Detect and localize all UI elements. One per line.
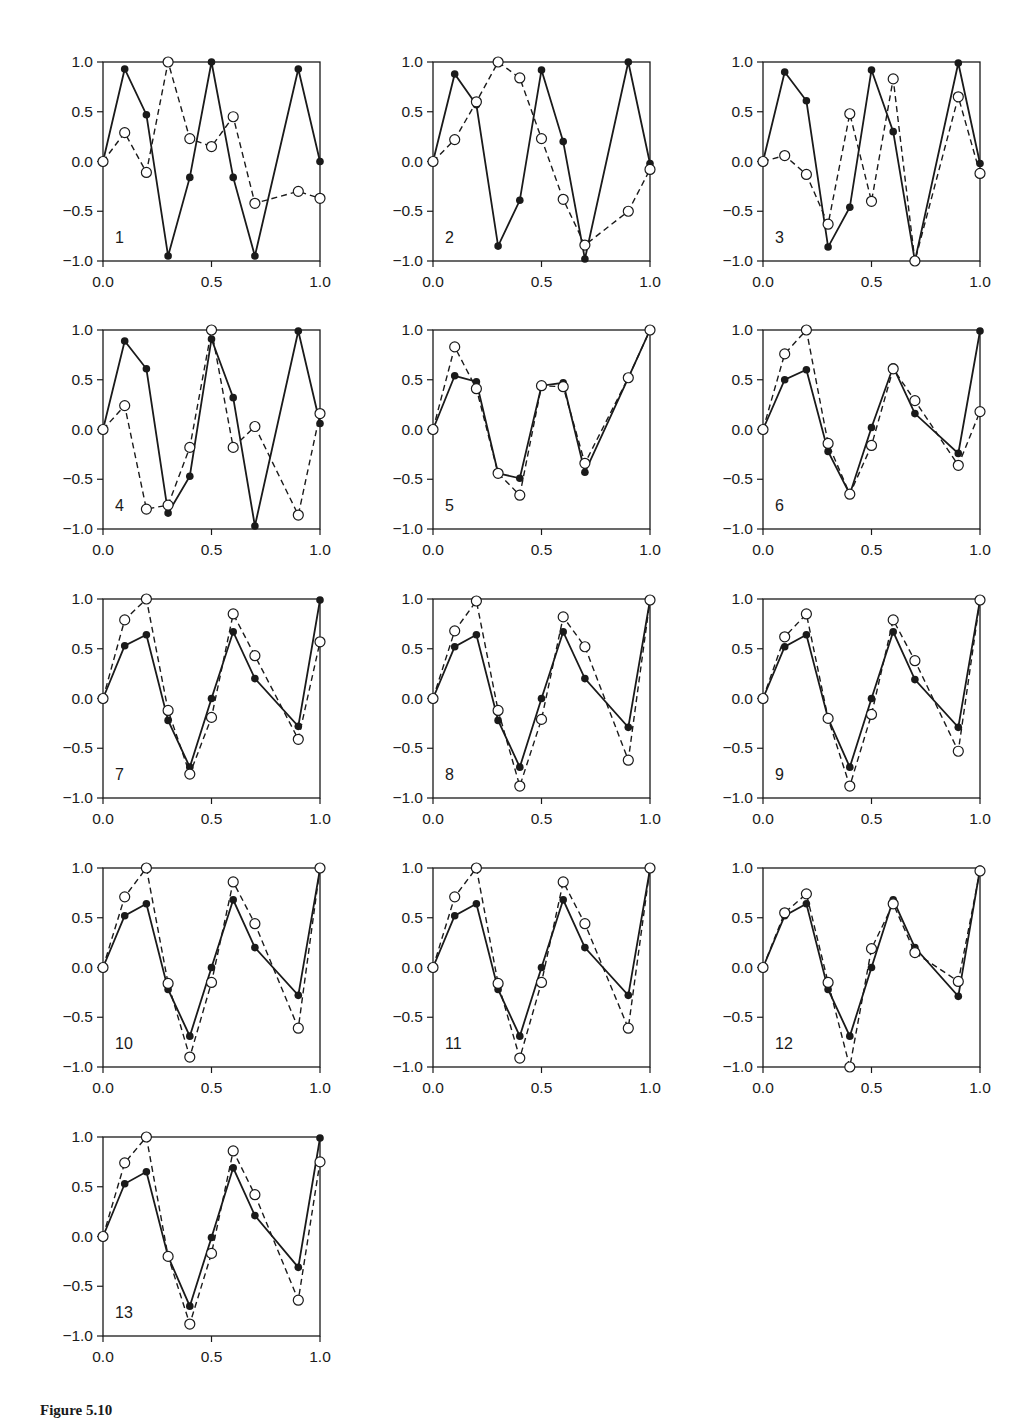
open-circle-marker xyxy=(185,442,195,452)
open-circle-marker xyxy=(98,1232,108,1242)
filled-circle-marker xyxy=(473,631,481,639)
open-circle-marker xyxy=(228,112,238,122)
filled-circle-marker xyxy=(976,160,984,168)
open-circle-marker xyxy=(141,863,151,873)
x-tick-label: 1.0 xyxy=(309,1079,331,1096)
open-circle-marker xyxy=(558,382,568,392)
x-tick-label: 1.0 xyxy=(639,810,661,827)
open-circle-marker xyxy=(801,325,811,335)
open-circle-marker xyxy=(801,609,811,619)
y-tick-label: 0.5 xyxy=(71,1178,93,1195)
filled-circle-marker xyxy=(143,111,151,119)
open-circle-marker xyxy=(228,609,238,619)
filled-circle-marker xyxy=(976,327,984,335)
y-tick-label: 0.0 xyxy=(71,421,93,438)
open-circle-marker xyxy=(428,425,438,435)
open-circle-marker xyxy=(910,396,920,406)
x-tick-label: 0.5 xyxy=(201,810,223,827)
open-circle-marker xyxy=(558,612,568,622)
filled-circle-marker xyxy=(208,695,216,703)
open-circle-marker xyxy=(163,1251,173,1261)
open-circle-marker xyxy=(910,948,920,958)
open-circle-marker xyxy=(141,594,151,604)
y-tick-label: −1.0 xyxy=(392,520,423,537)
x-tick-label: 0.5 xyxy=(861,541,883,558)
dashed-series-line xyxy=(103,330,320,515)
x-tick-label: 0.0 xyxy=(92,273,114,290)
filled-circle-marker xyxy=(251,675,259,683)
open-circle-marker xyxy=(228,442,238,452)
open-circle-marker xyxy=(315,637,325,647)
open-circle-marker xyxy=(823,977,833,987)
open-circle-marker xyxy=(645,863,655,873)
y-tick-label: −0.5 xyxy=(392,470,423,487)
dashed-series-line xyxy=(433,600,650,786)
open-circle-marker xyxy=(537,714,547,724)
y-tick-label: 1.0 xyxy=(401,53,423,70)
open-circle-marker xyxy=(953,976,963,986)
open-circle-marker xyxy=(450,626,460,636)
filled-circle-marker xyxy=(451,70,459,78)
y-tick-label: 1.0 xyxy=(71,590,93,607)
x-tick-label: 0.0 xyxy=(422,1079,444,1096)
filled-circle-marker xyxy=(581,255,589,263)
open-circle-marker xyxy=(537,381,547,391)
open-circle-marker xyxy=(975,407,985,417)
panel-7: 1.00.50.0−0.5−1.00.00.51.07 xyxy=(62,590,331,827)
y-tick-label: −0.5 xyxy=(722,202,753,219)
open-circle-marker xyxy=(867,709,877,719)
filled-circle-marker xyxy=(846,203,854,211)
x-tick-label: 0.5 xyxy=(201,1079,223,1096)
open-circle-marker xyxy=(450,342,460,352)
y-tick-label: 0.0 xyxy=(401,153,423,170)
open-circle-marker xyxy=(471,596,481,606)
filled-circle-marker xyxy=(229,1164,237,1172)
y-tick-label: 1.0 xyxy=(731,53,753,70)
y-tick-label: 0.5 xyxy=(71,640,93,657)
panel-9: 1.00.50.0−0.5−1.00.00.51.09 xyxy=(722,590,991,827)
y-tick-label: −0.5 xyxy=(722,1008,753,1025)
filled-circle-marker xyxy=(121,912,129,920)
x-tick-label: 0.0 xyxy=(92,1348,114,1365)
panel-2: 1.00.50.0−0.5−1.00.00.51.02 xyxy=(392,53,661,290)
filled-circle-marker xyxy=(625,58,633,66)
dashed-series-line xyxy=(103,1137,320,1324)
y-tick-label: −0.5 xyxy=(722,739,753,756)
open-circle-marker xyxy=(801,169,811,179)
open-circle-marker xyxy=(758,963,768,973)
filled-circle-marker xyxy=(846,763,854,771)
open-circle-marker xyxy=(250,1190,260,1200)
solid-series-line xyxy=(103,600,320,767)
open-circle-marker xyxy=(315,1157,325,1167)
y-tick-label: 0.0 xyxy=(71,1228,93,1245)
y-tick-label: −1.0 xyxy=(392,252,423,269)
y-tick-label: −0.5 xyxy=(62,1008,93,1025)
x-tick-label: 0.0 xyxy=(422,273,444,290)
y-tick-label: 0.5 xyxy=(71,371,93,388)
open-circle-marker xyxy=(645,595,655,605)
figure-caption-label: Figure 5.10 xyxy=(40,1402,112,1418)
open-circle-marker xyxy=(120,615,130,625)
filled-circle-marker xyxy=(186,174,194,182)
filled-circle-marker xyxy=(824,243,832,251)
filled-circle-marker xyxy=(559,896,567,904)
y-tick-label: 1.0 xyxy=(401,590,423,607)
open-circle-marker xyxy=(758,694,768,704)
filled-circle-marker xyxy=(208,964,216,972)
filled-circle-marker xyxy=(316,420,324,428)
open-circle-marker xyxy=(428,694,438,704)
open-circle-marker xyxy=(623,206,633,216)
panel-11: 1.00.50.0−0.5−1.00.00.51.011 xyxy=(392,859,661,1096)
filled-circle-marker xyxy=(295,723,303,731)
filled-circle-marker xyxy=(143,365,151,373)
open-circle-marker xyxy=(428,157,438,167)
filled-circle-marker xyxy=(229,174,237,182)
x-tick-label: 0.5 xyxy=(531,541,553,558)
open-circle-marker xyxy=(845,781,855,791)
open-circle-marker xyxy=(315,863,325,873)
open-circle-marker xyxy=(98,157,108,167)
filled-circle-marker xyxy=(516,474,524,482)
open-circle-marker xyxy=(823,219,833,229)
solid-series-line xyxy=(103,331,320,526)
